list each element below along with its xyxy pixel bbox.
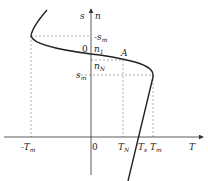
origin-bottom-label: 0 [92,142,98,152]
TN-label: TN [118,142,130,153]
origin-top-label: 0 [82,44,88,54]
torque-speed-curve [31,10,153,181]
Ts-label: Ts [138,142,147,153]
point-A-label: A [120,48,128,58]
s-axis-label: s [80,11,85,21]
Tm-label: Tm [150,142,162,153]
n-axis-label: n [95,11,101,21]
T-axis-label: T [189,142,196,152]
nN-label: nN [94,61,106,72]
neg-sm-label: -sm [94,32,108,43]
sm-label: sm [76,70,87,81]
torque-speed-diagram: s n -sm 0 n1 A nN sm -Tm 0 TN Ts Tm T [0,0,208,181]
diagram-canvas: s n -sm 0 n1 A nN sm -Tm 0 TN Ts Tm T [0,0,208,181]
dashed-guides [31,36,153,137]
n1-label: n1 [94,44,104,55]
neg-Tm-label: -Tm [21,142,36,153]
